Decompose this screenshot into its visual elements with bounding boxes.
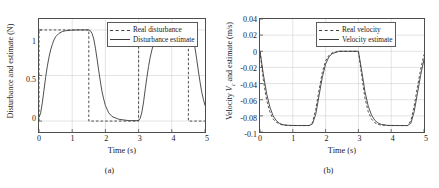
panel-b-legend: Real velocity Velocity estimate [316, 22, 396, 47]
panel-b-xtick-3: 3 [358, 134, 362, 143]
panel-a-ytick-1: 0.5 [26, 75, 36, 84]
panel-b-ytick-5: -0.06 [240, 97, 257, 106]
panel-b-xtick-4: 4 [391, 134, 395, 143]
solid-line-icon [110, 35, 130, 43]
panel-b-legend-item-real: Real velocity [319, 25, 392, 35]
panel-b-x-axis-label: Time (s) [260, 146, 424, 155]
panel-b-plot-area: 0.04 0.02 0 -0.02 -0.04 -0.06 -0.08 -0.1… [259, 18, 425, 133]
panel-a-x-axis-label: Time (s) [39, 146, 205, 155]
panel-a-legend-item-real: Real disturbance [110, 25, 194, 35]
panel-b-ylabel-prefix: Velocity [225, 91, 234, 120]
panel-b-xtick-5: 5 [424, 134, 428, 143]
panel-a-legend-item-estimate: Disturbance estimate [110, 35, 194, 45]
panel-a-plot-area: 0 0.5 1 0 1 2 3 4 5 Time (s) Real distur… [38, 18, 206, 133]
panel-b-ytick-7: -0.1 [244, 130, 257, 139]
panel-a-legend: Real disturbance Disturbance estimate [107, 22, 198, 47]
panel-a-legend-label-estimate: Disturbance estimate [133, 35, 194, 45]
panel-b-xtick-0: 0 [258, 134, 262, 143]
panel-b-ytick-6: -0.08 [240, 113, 257, 122]
panel-b-ylabel-symbol: V [225, 86, 234, 91]
panel-b-ytick-0: 0.04 [243, 15, 257, 24]
panel-b-ytick-2: 0 [253, 47, 257, 56]
panel-b: Velocity Vc and estimate (m/s) 0.04 0.02… [219, 0, 438, 188]
panel-b-legend-label-estimate: Velocity estimate [342, 35, 392, 45]
panel-a-xtick-2: 2 [104, 134, 108, 143]
panel-b-caption: (b) [219, 166, 438, 175]
panel-b-legend-label-real: Real velocity [342, 25, 381, 35]
panel-b-xtick-1: 1 [291, 134, 295, 143]
panel-b-ytick-1: 0.02 [243, 31, 257, 40]
panel-b-ytick-3: -0.02 [240, 64, 257, 73]
panel-a-ytick-0: 0 [32, 113, 36, 122]
panel-b-ytick-4: -0.04 [240, 80, 257, 89]
panel-a: Disturbance and estimate (N) 0 0.5 1 0 1… [0, 0, 219, 188]
panel-b-xtick-2: 2 [324, 134, 328, 143]
panel-b-legend-item-estimate: Velocity estimate [319, 35, 392, 45]
panel-b-ylabel-suffix: and estimate (m/s) [225, 22, 234, 84]
panel-a-xtick-1: 1 [71, 134, 75, 143]
panel-a-xtick-3: 3 [138, 134, 142, 143]
panel-a-legend-label-real: Real disturbance [133, 25, 182, 35]
panel-a-xtick-0: 0 [37, 134, 41, 143]
panel-a-ytick-2: 1 [32, 37, 36, 46]
panel-a-y-axis-label: Disturbance and estimate (N) [6, 0, 20, 146]
panel-b-y-axis-label: Velocity Vc and estimate (m/s) [225, 0, 239, 146]
dashed-line-icon [110, 26, 130, 34]
panel-a-caption: (a) [0, 166, 219, 175]
panel-a-xtick-4: 4 [171, 134, 175, 143]
figure-container: Disturbance and estimate (N) 0 0.5 1 0 1… [0, 0, 439, 188]
dashed-line-icon [319, 26, 339, 34]
solid-line-icon [319, 35, 339, 43]
panel-a-xtick-5: 5 [205, 134, 209, 143]
